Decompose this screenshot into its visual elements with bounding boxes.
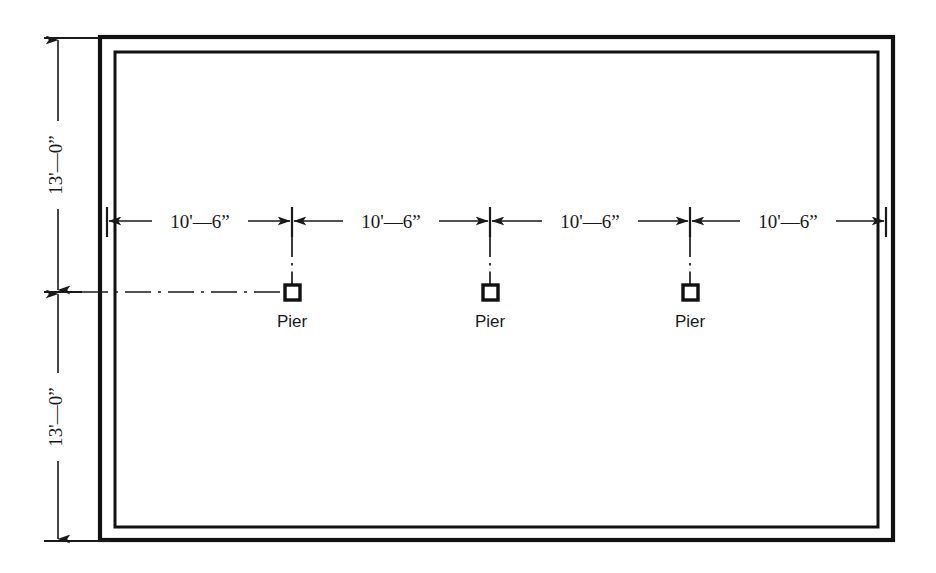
pier-3-group: Pier (675, 235, 706, 331)
pier-1-symbol (285, 285, 300, 300)
vertical-dimension-lower-label: 13'—0” (45, 387, 66, 446)
plan-svg-canvas: 13'—0” 13'—0” 10'—6” (0, 0, 936, 573)
pier-3-label: Pier (675, 312, 706, 331)
vertical-dimension-upper-label: 13'—0” (45, 135, 66, 194)
pier-2-symbol (483, 285, 498, 300)
hdim-bay-3-label-group: 10'—6” (542, 209, 638, 232)
horizontal-dimension-group: 10'—6” 10'—6” 10'—6” 10'—6” (107, 207, 886, 237)
foundation-plan-drawing: 13'—0” 13'—0” 10'—6” (0, 0, 936, 573)
vdim-upper-label-group: 13'—0” (45, 121, 67, 209)
hdim-bay-4-label-group: 10'—6” (740, 209, 836, 232)
horizontal-dimension-bay-4-label: 10'—6” (758, 211, 817, 232)
hdim-bay-2-label-group: 10'—6” (343, 209, 439, 232)
hdim-bay-1-label-group: 10'—6” (152, 209, 248, 232)
pier-1-group: Pier (277, 235, 308, 331)
horizontal-dimension-bay-1-label: 10'—6” (170, 211, 229, 232)
pier-2-label: Pier (475, 312, 506, 331)
pier-3-symbol (683, 285, 698, 300)
horizontal-dimension-bay-2-label: 10'—6” (361, 211, 420, 232)
pier-2-group: Pier (475, 235, 506, 331)
vdim-lower-label-group: 13'—0” (45, 373, 67, 461)
horizontal-dimension-bay-3-label: 10'—6” (560, 211, 619, 232)
pier-1-label: Pier (277, 312, 308, 331)
